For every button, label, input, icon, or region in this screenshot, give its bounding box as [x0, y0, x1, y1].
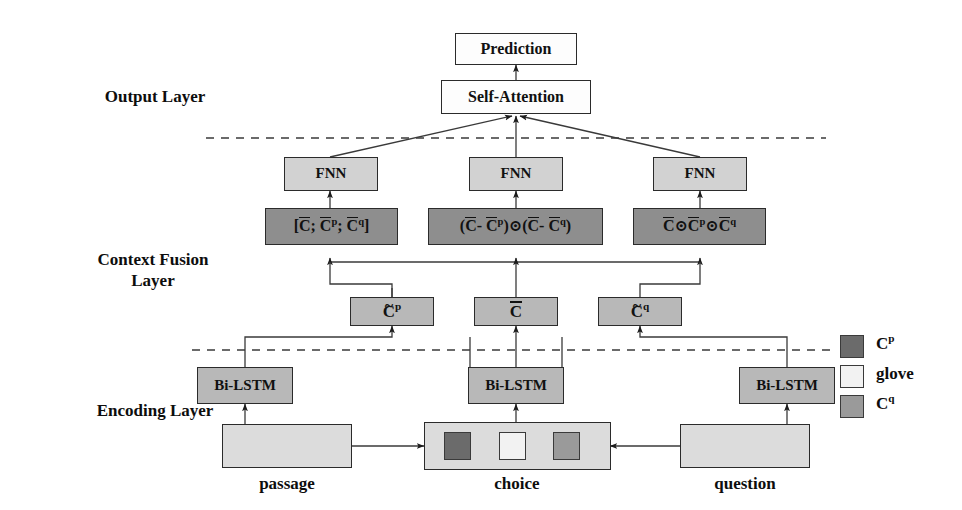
passage-label: passage: [212, 474, 362, 494]
legend-swatch-cp: [840, 335, 864, 358]
legend-label-cp: Cp: [876, 334, 895, 354]
fnn-right-box[interactable]: FNN: [653, 157, 747, 191]
c-tilde-p-box[interactable]: C~p: [350, 297, 434, 326]
layer-label-context-fusion-line1: Context Fusion: [48, 249, 258, 270]
self-attention-box[interactable]: Self-Attention: [441, 80, 591, 114]
legend-sup-cp: p: [888, 332, 894, 344]
c-bar-box[interactable]: C: [474, 297, 558, 326]
fusion-diff-box[interactable]: (C- Cp)⊙(C- Cq): [428, 208, 603, 245]
layer-label-output: Output Layer: [60, 86, 250, 107]
fnn-mid-box[interactable]: FNN: [469, 157, 563, 191]
legend-label-cq: Cq: [876, 394, 895, 414]
cp-token: [444, 432, 471, 460]
legend-label-glove: glove: [876, 364, 914, 384]
c-tilde-q-box[interactable]: C~q: [598, 297, 682, 326]
fusion-diff-expression: (C- Cp)⊙(C- Cq): [460, 218, 571, 235]
layer-label-context-fusion: Context Fusion Layer: [48, 249, 258, 292]
c-bar-symbol: C: [510, 303, 522, 321]
fusion-prod-expression: C⊙Cp⊙Cq: [663, 218, 736, 235]
bilstm-mid-box[interactable]: Bi-LSTM: [468, 367, 564, 404]
choice-label: choice: [442, 474, 592, 494]
fusion-concat-box[interactable]: [C; Cp; Cq]: [265, 208, 398, 245]
bilstm-left-box[interactable]: Bi-LSTM: [197, 367, 293, 404]
legend-swatch-glove: [840, 365, 864, 388]
legend-sup-cq: q: [888, 392, 894, 404]
prediction-box[interactable]: Prediction: [455, 33, 577, 65]
fusion-concat-expression: [C; Cp; Cq]: [294, 218, 370, 235]
glove-token: [499, 432, 526, 460]
cq-token: [553, 432, 580, 460]
c-tilde-p-symbol: C~p: [383, 303, 402, 321]
passage-box[interactable]: [222, 424, 352, 468]
question-box[interactable]: [680, 424, 810, 468]
fnn-left-box[interactable]: FNN: [284, 157, 378, 191]
legend-swatch-cq: [840, 395, 864, 418]
bilstm-right-box[interactable]: Bi-LSTM: [739, 367, 835, 404]
question-label: question: [670, 474, 820, 494]
architecture-diagram: Output Layer Context Fusion Layer Encodi…: [0, 0, 962, 510]
c-tilde-q-symbol: C~q: [631, 303, 650, 321]
fusion-prod-box[interactable]: C⊙Cp⊙Cq: [633, 208, 766, 245]
layer-label-context-fusion-line2: Layer: [48, 270, 258, 291]
